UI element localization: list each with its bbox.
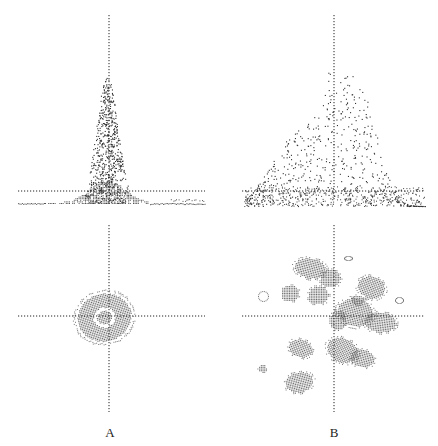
figure-canvas — [0, 0, 438, 446]
panel-label-b: B — [330, 425, 339, 441]
panel-a-surface — [18, 15, 206, 205]
panel-label-a: A — [105, 425, 114, 441]
panel-b-contour — [242, 225, 425, 412]
panel-b-surface — [242, 15, 426, 207]
panel-a-contour — [18, 225, 205, 412]
